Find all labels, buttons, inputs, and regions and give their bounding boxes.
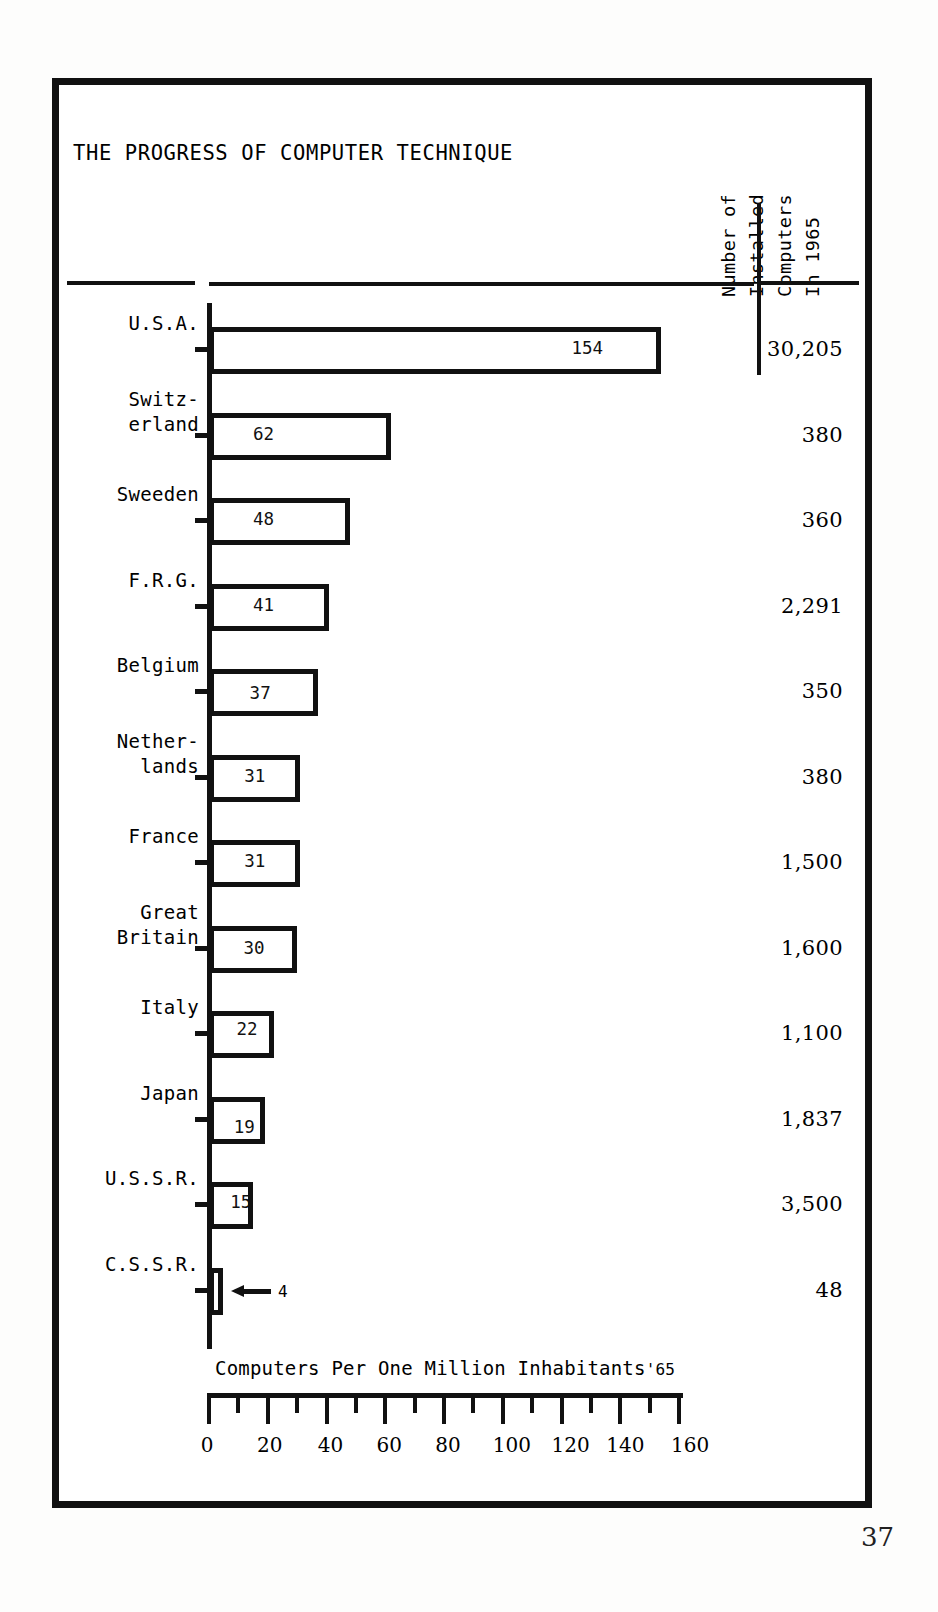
x-axis-major-tick bbox=[325, 1398, 329, 1424]
left-arrow-icon bbox=[231, 1285, 271, 1297]
x-axis-major-tick bbox=[677, 1398, 681, 1424]
category-label: U.S.S.R. bbox=[0, 1166, 199, 1191]
x-axis-tick-label: 120 bbox=[552, 1433, 584, 1457]
x-axis-major-tick bbox=[207, 1398, 211, 1424]
bar-chart-plot: 30,205U.S.A.154380Switz- erland62360Swee… bbox=[59, 85, 865, 1501]
x-axis-label: Computers Per One Million Inhabitants'65 bbox=[215, 1357, 675, 1379]
x-axis-major-tick bbox=[560, 1398, 564, 1424]
chart-row: C.S.S.R.4 bbox=[59, 1248, 865, 1334]
x-axis-tick-label: 20 bbox=[254, 1433, 286, 1457]
x-axis-minor-tick bbox=[589, 1398, 593, 1413]
x-axis-minor-tick bbox=[354, 1398, 358, 1413]
bar bbox=[209, 498, 350, 545]
category-label: Nether- lands bbox=[0, 729, 199, 779]
chart-row: F.R.G.41 bbox=[59, 564, 865, 650]
bar-value-label: 31 bbox=[244, 853, 265, 871]
bar-value-label: 19 bbox=[234, 1119, 255, 1137]
category-label: France bbox=[0, 824, 199, 849]
bar-value-label: 48 bbox=[253, 511, 274, 529]
category-label: Great Britain bbox=[0, 900, 199, 950]
chart-row: U.S.A.154 bbox=[59, 307, 865, 393]
category-label: Italy bbox=[0, 995, 199, 1020]
chart-row: Sweeden48 bbox=[59, 478, 865, 564]
x-axis-major-tick bbox=[501, 1398, 505, 1424]
chart-row: Japan19 bbox=[59, 1077, 865, 1163]
bar-value-label: 154 bbox=[571, 340, 603, 358]
x-axis-minor-tick bbox=[530, 1398, 534, 1413]
chart-frame: THE PROGRESS OF COMPUTER TECHNIQUE Numbe… bbox=[52, 78, 872, 1508]
bar-value-label: 37 bbox=[250, 685, 271, 703]
x-axis-tick-label: 140 bbox=[606, 1433, 638, 1457]
bar-value-label: 62 bbox=[253, 426, 274, 444]
category-label: Japan bbox=[0, 1081, 199, 1106]
chart-row: Italy22 bbox=[59, 991, 865, 1077]
chart-row: U.S.S.R.15 bbox=[59, 1162, 865, 1248]
scanned-page: THE PROGRESS OF COMPUTER TECHNIQUE Numbe… bbox=[0, 0, 938, 1612]
x-axis-major-tick bbox=[383, 1398, 387, 1424]
bar bbox=[209, 1268, 223, 1315]
category-label: Sweeden bbox=[0, 482, 199, 507]
category-label: Belgium bbox=[0, 653, 199, 678]
x-axis-major-tick bbox=[442, 1398, 446, 1424]
chart-row: Nether- lands31 bbox=[59, 735, 865, 821]
chart-row: France31 bbox=[59, 820, 865, 906]
chart-row: Belgium37 bbox=[59, 649, 865, 735]
chart-row: Great Britain30 bbox=[59, 906, 865, 992]
x-axis-minor-tick bbox=[236, 1398, 240, 1413]
x-axis-minor-tick bbox=[471, 1398, 475, 1413]
x-axis-minor-tick bbox=[413, 1398, 417, 1413]
bar-value-label: 30 bbox=[243, 940, 264, 958]
bar-value-label: 41 bbox=[253, 597, 274, 615]
x-axis-tick-label: 60 bbox=[373, 1433, 405, 1457]
bar-value-label: 4 bbox=[278, 1282, 288, 1301]
bar-value-arrow-callout: 4 bbox=[231, 1282, 288, 1301]
category-label: U.S.A. bbox=[0, 311, 199, 336]
x-axis-tick-label: 100 bbox=[493, 1433, 525, 1457]
x-axis-minor-tick bbox=[295, 1398, 299, 1413]
x-axis-major-tick bbox=[266, 1398, 270, 1424]
category-label: F.R.G. bbox=[0, 568, 199, 593]
x-axis-tick-label: 160 bbox=[671, 1433, 703, 1457]
bar-value-label: 15 bbox=[230, 1194, 251, 1212]
x-axis-tick-label: 0 bbox=[191, 1433, 223, 1457]
x-axis-label-text: Computers Per One Million Inhabitants bbox=[215, 1357, 646, 1379]
x-axis-tick-label: 40 bbox=[315, 1433, 347, 1457]
bar-value-label: 22 bbox=[236, 1021, 257, 1039]
category-label: Switz- erland bbox=[0, 387, 199, 437]
bar-value-label: 31 bbox=[244, 768, 265, 786]
category-label: C.S.S.R. bbox=[0, 1252, 199, 1277]
x-axis-label-suffix: '65 bbox=[646, 1360, 676, 1379]
x-axis-major-tick bbox=[618, 1398, 622, 1424]
chart-row: Switz- erland62 bbox=[59, 393, 865, 479]
bar bbox=[209, 413, 391, 460]
x-axis-minor-tick bbox=[648, 1398, 652, 1413]
x-axis-tick-label: 80 bbox=[432, 1433, 464, 1457]
page-number: 37 bbox=[861, 1522, 894, 1552]
